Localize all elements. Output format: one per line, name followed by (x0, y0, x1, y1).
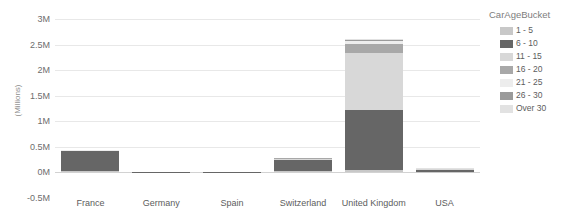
legend-item-label: 6 - 10 (516, 39, 538, 48)
legend-items: 1 - 56 - 1011 - 1516 - 2021 - 2526 - 30O… (489, 24, 580, 115)
y-axis-tick-labels: 3M2.5M2M1.5M1M0.5M0M-0.5M (0, 19, 50, 172)
plot-area (55, 19, 480, 172)
legend-swatch-icon (500, 92, 513, 100)
bar-slot (197, 19, 268, 172)
zero-axis-line (55, 172, 480, 173)
legend-item-label: 11 - 15 (516, 52, 542, 61)
bar-stack[interactable] (61, 150, 119, 172)
y-tick-label: 2M (2, 66, 50, 75)
x-axis-tick-labels: FranceGermanySpainSwitzerlandUnited King… (55, 198, 480, 212)
bar-segment[interactable] (345, 170, 403, 172)
legend-swatch-icon (500, 105, 513, 113)
legend-swatch-icon (500, 27, 513, 35)
y-tick-label: 0M (2, 168, 50, 177)
chart-screenshot: (Millions) 3M2.5M2M1.5M1M0.5M0M-0.5M Fra… (0, 0, 580, 221)
bar-slot (267, 19, 338, 172)
y-tick-label: 1M (2, 117, 50, 126)
legend-item-label: 16 - 20 (516, 65, 542, 74)
chart-title (110, 0, 410, 5)
bar-stack[interactable] (345, 39, 403, 172)
legend-item-label: Over 30 (516, 104, 546, 113)
legend-item-label: 26 - 30 (516, 91, 542, 100)
legend-item[interactable]: 1 - 5 (489, 24, 580, 37)
y-tick-label: -0.5M (2, 194, 50, 203)
legend: CarAgeBucket 1 - 56 - 1011 - 1516 - 2021… (489, 8, 580, 115)
legend-swatch-icon (500, 40, 513, 48)
legend-swatch-icon (500, 53, 513, 61)
y-tick-label: 1.5M (2, 92, 50, 101)
legend-item-label: 21 - 25 (516, 78, 542, 87)
legend-swatch-icon (500, 66, 513, 74)
bars-layer (55, 19, 480, 172)
bar-segment[interactable] (61, 171, 119, 172)
bar-segment[interactable] (274, 160, 332, 172)
legend-item[interactable]: 11 - 15 (489, 50, 580, 63)
legend-item[interactable]: 6 - 10 (489, 37, 580, 50)
y-tick-label: 2.5M (2, 41, 50, 50)
legend-item[interactable]: 21 - 25 (489, 76, 580, 89)
legend-title: CarAgeBucket (489, 8, 580, 21)
bar-stack[interactable] (416, 168, 474, 172)
x-tick-label: United Kingdom (338, 198, 409, 212)
bar-slot (55, 19, 126, 172)
x-tick-label: Switzerland (267, 198, 338, 212)
x-tick-label: USA (409, 198, 480, 212)
legend-item[interactable]: Over 30 (489, 102, 580, 115)
legend-swatch-icon (500, 79, 513, 87)
bar-segment[interactable] (345, 44, 403, 53)
bar-segment[interactable] (345, 110, 403, 170)
y-tick-label: 3M (2, 15, 50, 24)
legend-item[interactable]: 16 - 20 (489, 63, 580, 76)
x-tick-label: France (55, 198, 126, 212)
bar-segment[interactable] (61, 151, 119, 171)
x-tick-label: Spain (197, 198, 268, 212)
bar-stack[interactable] (274, 158, 332, 172)
legend-item[interactable]: 26 - 30 (489, 89, 580, 102)
bar-segment[interactable] (345, 53, 403, 110)
bar-slot (338, 19, 409, 172)
legend-item-label: 1 - 5 (516, 26, 533, 35)
y-tick-label: 0.5M (2, 143, 50, 152)
x-tick-label: Germany (126, 198, 197, 212)
bar-slot (126, 19, 197, 172)
bar-slot (409, 19, 480, 172)
bar-segment[interactable] (274, 171, 332, 172)
bar-stack[interactable] (132, 172, 190, 173)
